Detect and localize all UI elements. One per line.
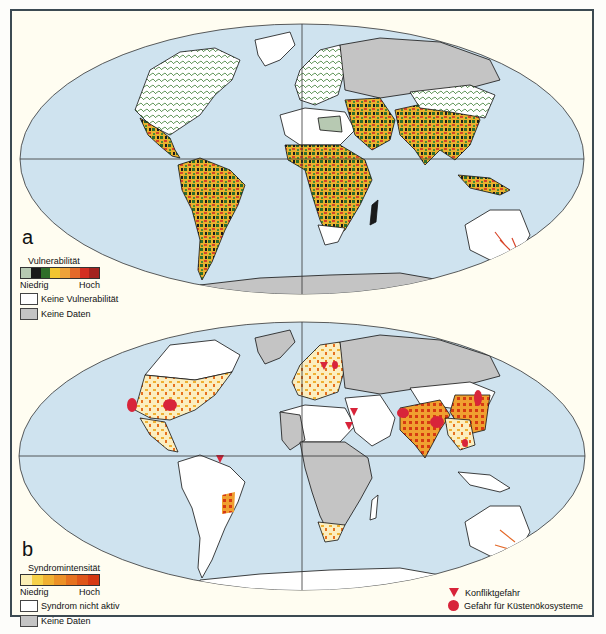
legend-item-conflict: Konfliktgefahr (448, 586, 583, 599)
gray-swatch (20, 615, 38, 627)
legend-syndrome-intensity: Syndromintensität Niedrig Hoch Syndrom n… (20, 563, 120, 627)
coastal-hazard-marker (127, 398, 137, 412)
coastal-hazard-marker (430, 416, 444, 428)
libya (318, 116, 342, 132)
scale-high-label: Hoch (79, 587, 100, 597)
legend-item-label: Konfliktgefahr (465, 588, 520, 598)
white-swatch (20, 600, 38, 612)
coastal-hazard-marker (397, 408, 409, 418)
scale-high-label: Hoch (79, 280, 100, 290)
legend-item-label: Keine Daten (41, 616, 91, 626)
panel-label-a: a (22, 226, 33, 249)
brazil-hotspot (222, 492, 235, 514)
color-scale (20, 267, 100, 279)
legend-title: Vulnerabilität (28, 256, 118, 266)
color-scale (20, 574, 100, 586)
coastal-hazard-marker (462, 439, 468, 447)
north-africa (280, 108, 355, 145)
legend-item-label: Syndrom nicht aktiv (41, 601, 120, 611)
triangle-icon (449, 588, 459, 597)
coastal-hazard-marker (163, 399, 177, 411)
scale-low-label: Niedrig (20, 280, 49, 290)
legend-item-coastal: Gefahr für Küstenökosysteme (448, 599, 583, 612)
legend-title: Syndromintensität (28, 563, 120, 573)
symbol-legend: Konfliktgefahr Gefahr für Küstenökosyste… (448, 586, 583, 612)
legend-item-label: Gefahr für Küstenökosysteme (464, 601, 583, 611)
coastal-hazard-marker (474, 390, 482, 406)
legend-item: Keine Daten (20, 615, 120, 627)
circle-icon (448, 600, 459, 611)
panel-label-b: b (22, 538, 33, 561)
coastal-hazard-marker (332, 361, 338, 369)
scale-low-label: Niedrig (20, 587, 49, 597)
legend-item: Syndrom nicht aktiv (20, 600, 120, 612)
